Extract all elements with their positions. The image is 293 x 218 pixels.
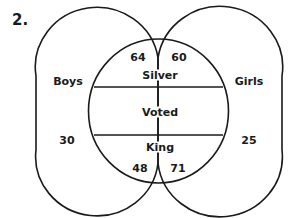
king-label: King (145, 142, 175, 153)
voted-label: Voted (141, 107, 179, 118)
girls-label: Girls (235, 76, 264, 87)
boys-set-outline (35, 7, 158, 216)
boys-label: Boys (53, 76, 83, 87)
boys-king-count: 48 (132, 163, 147, 174)
girls-only-count: 25 (241, 135, 256, 146)
boys-silver-count: 64 (130, 52, 145, 63)
silver-label: Silver (141, 70, 179, 81)
girls-silver-count: 60 (171, 52, 186, 63)
girls-king-count: 71 (170, 163, 185, 174)
boys-only-count: 30 (59, 135, 74, 146)
